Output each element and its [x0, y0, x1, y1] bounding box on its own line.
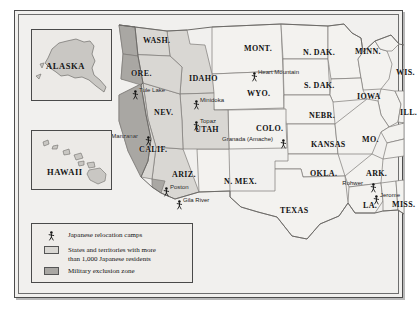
- state-label-texas: TEXAS: [280, 206, 308, 215]
- japanese-relocation-camps-map: ALASKA HAWAII WASH.ORE.IDAHOMONT.N. DAK.…: [0, 0, 417, 317]
- legend-label-zone: Military exclusion zone: [62, 267, 134, 276]
- legend-swatch-zone-key: [40, 267, 62, 275]
- relocation-camp-marker-icon: [251, 68, 257, 77]
- camp-label-rohwer: Rohwer: [342, 180, 363, 187]
- camp-label-poston: Poston: [170, 184, 189, 191]
- hawaii-shape: [32, 131, 111, 189]
- map-outer-frame: ALASKA HAWAII WASH.ORE.IDAHOMONT.N. DAK.…: [14, 10, 403, 298]
- state-label-ore: ORE.: [131, 69, 152, 78]
- state-label-minn: MINN.: [355, 47, 381, 56]
- state-label-ariz: ARIZ.: [172, 170, 196, 179]
- map-legend: Japanese relocation camps States and ter…: [31, 223, 193, 283]
- state-label-miss: MISS.: [392, 200, 415, 209]
- state-label-mont: MONT.: [244, 44, 272, 53]
- relocation-camp-marker-icon: [163, 183, 169, 192]
- camp-label-manzanar: Manzanar: [111, 133, 138, 140]
- state-label-n-mex: N. MEX.: [224, 177, 257, 186]
- relocation-camp-marker-icon: [132, 86, 138, 95]
- relocation-camp-marker-icon: [145, 132, 151, 141]
- state-label-wyo: WYO.: [247, 89, 270, 98]
- state-label-colo: COLO.: [256, 124, 283, 133]
- legend-row-zone: Military exclusion zone: [40, 267, 134, 276]
- inset-alaska: ALASKA: [31, 29, 112, 101]
- relocation-camp-marker-icon: [370, 179, 376, 188]
- relocation-camp-marker-icon: [40, 231, 62, 241]
- camp-label-heart-mountain: Heart Mountain: [258, 69, 299, 76]
- state-label-iowa: IOWA: [357, 92, 381, 101]
- legend-row-camps: Japanese relocation camps: [40, 231, 142, 241]
- state-label-calif: CALIF.: [139, 145, 167, 154]
- legend-label-states: States and territories with more than 1,…: [62, 246, 156, 263]
- state-label-nev: NEV.: [154, 108, 173, 117]
- state-label-okla: OKLA.: [310, 169, 337, 178]
- state-label-nebr: NEBR.: [309, 111, 335, 120]
- camp-label-jerome: Jerome: [380, 192, 400, 199]
- relocation-camp-marker-icon: [280, 135, 286, 144]
- legend-swatch-japanese-residents: [44, 246, 59, 254]
- relocation-camp-marker-icon: [193, 96, 199, 105]
- camp-label-minidoka: Minidoka: [200, 97, 224, 104]
- legend-swatch-states-key: [40, 246, 62, 254]
- state-label-wis: WIS.: [396, 68, 415, 77]
- state-label-kansas: KANSAS: [311, 140, 346, 149]
- state-label-n-dak: N. DAK.: [303, 48, 335, 57]
- inset-hawaii: HAWAII: [31, 130, 112, 190]
- camp-label-gila-river: Gila River: [183, 197, 209, 204]
- camp-label-tule-lake: Tule Lake: [139, 87, 165, 94]
- camp-label-granada-amache: Granada (Amache): [222, 136, 273, 143]
- camp-marker-glyph: [48, 231, 55, 241]
- state-label-s-dak: S. DAK.: [304, 81, 335, 90]
- state-kansas: [287, 124, 338, 154]
- relocation-camp-marker-icon: [176, 196, 182, 205]
- legend-row-states: States and territories with more than 1,…: [40, 246, 156, 263]
- state-label-mo: MO.: [362, 135, 379, 144]
- legend-swatch-military-exclusion-zone: [44, 267, 59, 275]
- camp-label-topaz: Topaz: [200, 118, 216, 125]
- legend-label-camps: Japanese relocation camps: [62, 231, 142, 240]
- state-label-ill: ILL.: [400, 108, 417, 117]
- state-label-wash: WASH.: [143, 36, 170, 45]
- state-label-ark: ARK.: [366, 169, 387, 178]
- relocation-camp-marker-icon: [193, 117, 199, 126]
- inset-label-alaska: ALASKA: [46, 61, 85, 71]
- inset-label-hawaii: HAWAII: [47, 167, 83, 177]
- state-label-idaho: IDAHO: [189, 74, 218, 83]
- relocation-camp-marker-icon: [373, 191, 379, 200]
